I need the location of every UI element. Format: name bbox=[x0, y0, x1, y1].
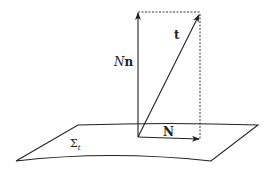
shift-vector-label: N bbox=[163, 125, 174, 139]
normal-vector-label-prefix: N bbox=[113, 55, 125, 69]
hypersurface-label: Σt bbox=[70, 137, 81, 152]
diagram-canvas: Nn t N Σt bbox=[0, 0, 275, 171]
normal-vector-label-suffix: n bbox=[125, 55, 134, 69]
normal-vector-label: Nn bbox=[113, 55, 134, 69]
hypersurface-label-subscript: t bbox=[78, 144, 81, 152]
time-vector-label: t bbox=[174, 28, 180, 42]
hypersurface-sigma-t bbox=[16, 124, 258, 162]
time-vector-arrow bbox=[138, 15, 199, 137]
